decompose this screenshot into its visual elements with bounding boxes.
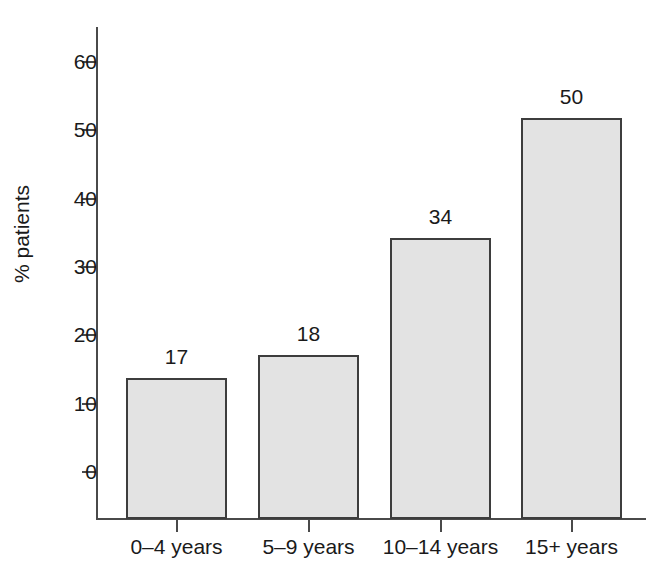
x-tick-mark	[571, 520, 573, 532]
y-tick-label: 60	[55, 51, 97, 72]
bar-value-label: 18	[269, 323, 349, 344]
bar-value-label: 34	[401, 206, 481, 227]
x-tick-mark	[176, 520, 178, 532]
y-tick-label: 40	[55, 188, 97, 209]
y-tick-label: 30	[55, 256, 97, 277]
y-tick-label: 50	[55, 119, 97, 140]
x-tick-label: 15+ years	[492, 535, 652, 558]
y-tick-label: 0	[55, 461, 97, 482]
y-tick-label: 10	[55, 393, 97, 414]
bar-value-label: 50	[532, 86, 612, 107]
y-tick-label: 20	[55, 324, 97, 345]
bar-value-label: 17	[137, 346, 217, 367]
x-tick-mark	[308, 520, 310, 532]
x-tick-mark	[440, 520, 442, 532]
bar	[126, 378, 227, 519]
bar	[390, 238, 491, 519]
bar	[521, 118, 622, 519]
bar	[258, 355, 359, 519]
bar-chart: % patients 0102030405060 17183450 0–4 ye…	[0, 0, 661, 572]
y-axis-title: % patients	[10, 169, 34, 299]
